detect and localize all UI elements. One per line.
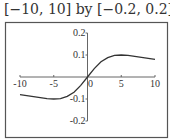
- x-tick-label: -5: [50, 78, 58, 89]
- y-tick-label: -0.1: [70, 93, 86, 104]
- x-tick-label: 0: [88, 78, 93, 89]
- chart-area: -10-505100.20.1-0.1-0.2: [0, 0, 170, 139]
- plot-frame: [6, 23, 168, 138]
- x-tick-label: 5: [119, 78, 124, 89]
- y-tick-label: 0.1: [73, 49, 86, 60]
- y-tick-label: 0.2: [73, 27, 86, 38]
- x-tick-label: 10: [150, 78, 160, 89]
- y-tick-label: -0.2: [70, 115, 86, 126]
- x-tick-label: -10: [13, 78, 26, 89]
